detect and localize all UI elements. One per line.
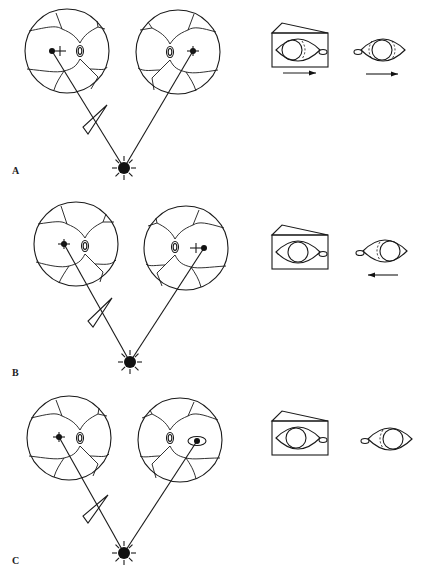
iris (383, 429, 403, 449)
light-core (118, 162, 130, 174)
retinal-vessel (152, 60, 170, 90)
light-ray (129, 173, 133, 177)
retinal-vessel (80, 59, 98, 89)
eye-drawing (368, 428, 412, 450)
eye-drawing (276, 427, 320, 449)
arrow-head (309, 71, 316, 76)
retinal-vessel (175, 223, 224, 239)
optic-cup (78, 435, 82, 442)
light-source-icon (112, 541, 136, 565)
occluder-top (272, 225, 328, 235)
fundus-circle (144, 206, 228, 290)
panel-a: A (12, 9, 405, 180)
retinal-vessel (188, 14, 194, 30)
retinal-vessel (80, 21, 98, 43)
direction-arrow-icon (366, 72, 398, 77)
retinal-vessel (80, 408, 99, 430)
retinal-vessel (138, 68, 160, 71)
right-visual-axis (130, 248, 204, 362)
light-ray (122, 354, 126, 358)
right-visual-axis (124, 51, 193, 168)
light-source-icon (112, 156, 136, 180)
caruncle (319, 50, 327, 55)
left-visual-axis (52, 51, 124, 168)
fellow-eye (361, 428, 412, 450)
retinal-vessel (54, 71, 64, 90)
iris (288, 242, 308, 262)
retinal-vessel (140, 28, 152, 30)
light-ray (135, 367, 139, 371)
retinal-vessel (38, 222, 85, 238)
arrow-head (391, 72, 398, 77)
occluder-top (272, 411, 328, 421)
right-fundus (144, 206, 228, 290)
light-core (124, 356, 136, 368)
retinal-vessel (56, 13, 62, 29)
retinal-vessel (27, 59, 80, 72)
retinal-vessel (90, 67, 107, 70)
caruncle (354, 50, 362, 55)
caruncle (361, 439, 369, 444)
left-fundus (34, 202, 118, 286)
eye-drawing (361, 39, 405, 61)
retinal-vessel (36, 254, 85, 267)
iris (372, 40, 392, 60)
retinal-vessel (152, 446, 170, 478)
retinal-vessel (140, 456, 160, 457)
fellow-eye (356, 240, 407, 262)
strabismus-diagram: ABC (0, 0, 424, 576)
optic-cup (173, 244, 177, 251)
occluded-eye (272, 23, 328, 67)
retinal-vessel (170, 414, 218, 430)
left-visual-axis (59, 437, 124, 553)
eye-outline (276, 241, 320, 263)
retinal-vessel (170, 60, 218, 73)
caruncle (319, 252, 327, 257)
iris (282, 40, 302, 60)
optic-cup (168, 435, 172, 442)
direction-arrow-icon (283, 71, 316, 76)
retinal-vessel (56, 400, 62, 416)
left-visual-axis (64, 244, 130, 362)
prism-icon (83, 105, 107, 134)
eye-drawing (363, 240, 407, 262)
retinal-vessel (90, 454, 109, 457)
retinal-vessel (29, 446, 80, 459)
light-ray (129, 558, 133, 562)
light-ray (116, 558, 120, 562)
panel-label: C (12, 555, 19, 566)
panel-label: B (12, 367, 19, 378)
retinal-vessel (175, 255, 226, 268)
retinal-vessel (98, 414, 107, 416)
retinal-vessel (170, 446, 220, 459)
retinal-vessel (170, 28, 216, 44)
fundus-circle (27, 396, 111, 480)
retinal-vessel (29, 27, 80, 43)
right-fundus (138, 398, 222, 482)
caruncle (356, 251, 364, 256)
left-fundus (27, 396, 111, 480)
direction-arrow-icon (368, 273, 398, 278)
panel-b: B (12, 202, 407, 378)
caruncle (319, 438, 327, 443)
retinal-vessel (156, 218, 175, 239)
light-core (118, 547, 130, 559)
eye-outline (276, 427, 320, 449)
retinal-vessel (148, 22, 170, 44)
retinal-vessel (191, 267, 201, 287)
eye-outline (361, 39, 405, 61)
light-ray (116, 173, 120, 177)
fellow-eye (354, 39, 405, 61)
light-ray (116, 545, 120, 549)
eye-drawing (276, 241, 320, 263)
optic-cup (168, 49, 172, 56)
occluded-eye (272, 411, 328, 455)
retinal-vessel (186, 458, 196, 479)
occluded-eye (272, 225, 328, 269)
eye-outline (368, 428, 412, 450)
retinal-vessel (54, 458, 64, 477)
panel-label: A (12, 165, 20, 176)
light-ray (122, 367, 126, 371)
retinal-vessel (85, 214, 106, 238)
iris (380, 241, 400, 261)
